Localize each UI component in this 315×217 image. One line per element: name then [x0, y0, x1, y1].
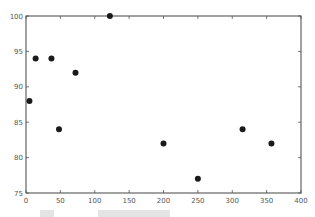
- x-tick-label: 50: [56, 197, 65, 205]
- data-point: [73, 70, 79, 76]
- x-tick-label: 0: [24, 197, 28, 205]
- y-tick-label: 75: [14, 190, 23, 198]
- data-point: [33, 55, 39, 61]
- y-tick-label: 95: [14, 48, 23, 56]
- figure-caption-fragment: [98, 210, 170, 217]
- x-tick-label: 300: [226, 197, 239, 205]
- plot-frame: [26, 16, 301, 193]
- x-axis: 050100150200250300350400: [24, 16, 308, 205]
- figure-caption-fragment: [40, 210, 54, 217]
- data-point: [268, 140, 274, 146]
- data-point: [26, 98, 32, 104]
- plot-border: [26, 16, 301, 193]
- y-tick-label: 80: [14, 154, 23, 162]
- y-axis: 7580859095100: [10, 13, 301, 198]
- data-point: [240, 126, 246, 132]
- data-point: [48, 55, 54, 61]
- x-tick-label: 100: [88, 197, 101, 205]
- y-tick-label: 85: [14, 119, 23, 127]
- x-tick-label: 200: [157, 197, 170, 205]
- scatter-chart: 050100150200250300350400 7580859095100: [0, 0, 315, 217]
- y-tick-label: 90: [14, 83, 23, 91]
- data-point: [56, 126, 62, 132]
- y-tick-label: 100: [10, 13, 23, 21]
- x-tick-label: 350: [260, 197, 273, 205]
- data-points: [26, 13, 274, 182]
- x-tick-label: 250: [191, 197, 204, 205]
- x-tick-label: 150: [122, 197, 135, 205]
- data-point: [195, 176, 201, 182]
- data-point: [107, 13, 113, 19]
- x-tick-label: 400: [294, 197, 307, 205]
- data-point: [161, 140, 167, 146]
